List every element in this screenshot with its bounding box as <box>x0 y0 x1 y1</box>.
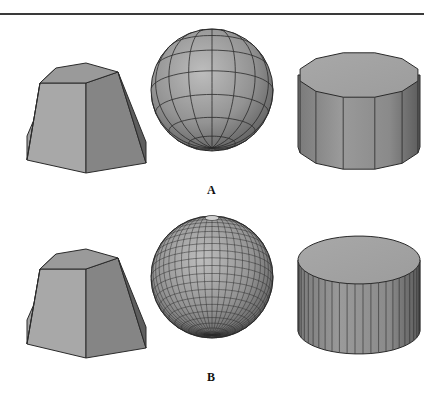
row-a-label: A <box>207 183 216 198</box>
row-b-label: B <box>207 370 215 385</box>
hexagonal-frustum-a <box>27 63 146 173</box>
hexagonal-frustum-b <box>27 249 146 358</box>
faceted-sphere-b <box>151 216 273 339</box>
faceted-sphere-a <box>151 29 273 151</box>
faceted-cylinder-b <box>298 236 420 354</box>
faceted-cylinder-a <box>298 53 420 169</box>
row-b <box>27 216 420 359</box>
row-a <box>27 29 420 173</box>
figure-canvas <box>0 0 442 403</box>
sphere-pole-cap <box>205 216 219 221</box>
